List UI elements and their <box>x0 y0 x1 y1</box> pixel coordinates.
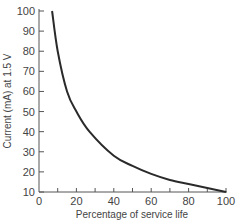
y-tick-label: 90 <box>23 25 35 37</box>
x-axis-title: Percentage of service life <box>76 209 189 220</box>
y-tick-label: 60 <box>23 85 35 97</box>
axes: 102030405060708090100020406080100 <box>17 5 236 207</box>
x-tick-label: 20 <box>70 195 82 207</box>
y-axis-title: Current (mA) at 1.5 V <box>2 53 13 148</box>
y-tick-label: 10 <box>23 186 35 198</box>
y-tick-label: 80 <box>23 45 35 57</box>
x-tick-label: 60 <box>145 195 157 207</box>
plot-area <box>52 11 226 192</box>
y-tick-label: 100 <box>17 5 35 17</box>
x-tick-label: 0 <box>36 195 42 207</box>
x-tick-label: 40 <box>108 195 120 207</box>
y-tick-label: 30 <box>23 146 35 158</box>
y-tick-label: 40 <box>23 126 35 138</box>
current-curve <box>52 11 226 192</box>
y-tick-label: 70 <box>23 65 35 77</box>
x-tick-label: 80 <box>182 195 194 207</box>
y-tick-label: 50 <box>23 106 35 118</box>
y-tick-label: 20 <box>23 166 35 178</box>
chart: 102030405060708090100020406080100 Percen… <box>0 0 240 224</box>
x-tick-label: 100 <box>217 195 235 207</box>
